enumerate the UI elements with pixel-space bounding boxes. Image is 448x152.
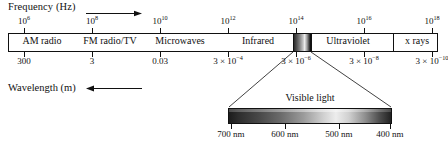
frequency-tick-label: 1018 xyxy=(424,17,439,26)
band-label: Ultraviolet xyxy=(326,36,369,46)
band-label: x rays xyxy=(405,36,429,46)
frequency-axis-label: Frequency (Hz) xyxy=(8,1,76,12)
band-label: FM radio/TV xyxy=(83,36,137,46)
visible-light-bar xyxy=(228,108,392,124)
band-divider xyxy=(393,34,394,51)
band-divider xyxy=(311,34,312,51)
visible-light-tick-label: 400 nm xyxy=(376,130,403,139)
frequency-tick-label: 1010 xyxy=(152,17,167,26)
visible-light-caption: Visible light xyxy=(285,92,334,103)
visible-light-callout-lines xyxy=(0,50,446,112)
visible-light-tick-label: 700 nm xyxy=(217,130,244,139)
band-label: AM radio xyxy=(22,36,61,46)
visible-light-slice xyxy=(293,34,311,51)
frequency-tick-label: 1016 xyxy=(356,17,371,26)
frequency-tick-label: 1014 xyxy=(288,17,303,26)
visible-light-tick-label: 500 nm xyxy=(325,130,352,139)
frequency-tick-label: 1012 xyxy=(220,17,235,26)
band-label: Infrared xyxy=(242,36,274,46)
frequency-tick-label: 106 xyxy=(18,17,30,26)
visible-light-tick-label: 600 nm xyxy=(271,130,298,139)
band-label: Microwaves xyxy=(155,36,204,46)
frequency-tick-label: 108 xyxy=(86,17,98,26)
